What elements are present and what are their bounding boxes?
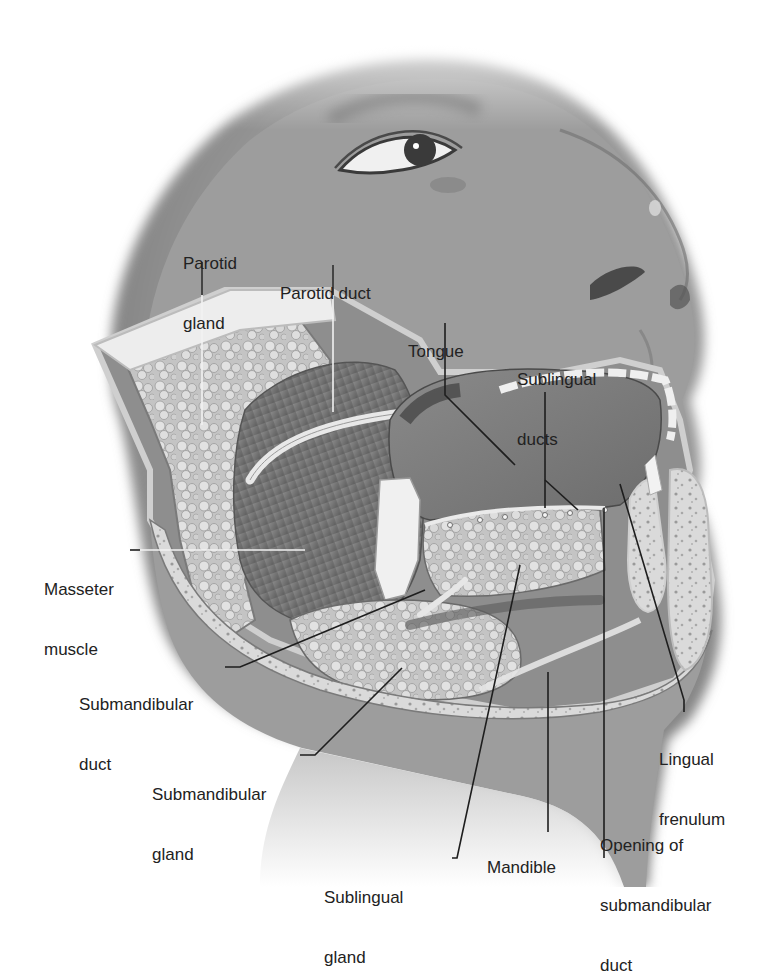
- label-sublingual-gland: Sublingual gland: [324, 848, 403, 975]
- label-submandibular-gland: Submandibular gland: [152, 745, 266, 885]
- label-parotid-gland: Parotid gland: [183, 214, 237, 354]
- label-parotid-duct: Parotid duct: [280, 244, 371, 324]
- label-sublingual-ducts: Sublingual ducts: [517, 330, 596, 470]
- label-tongue: Tongue: [408, 302, 464, 382]
- label-lingual-frenulum: Lingual frenulum: [659, 710, 725, 850]
- iris: [404, 134, 436, 166]
- label-mandible: Mandible: [487, 818, 556, 898]
